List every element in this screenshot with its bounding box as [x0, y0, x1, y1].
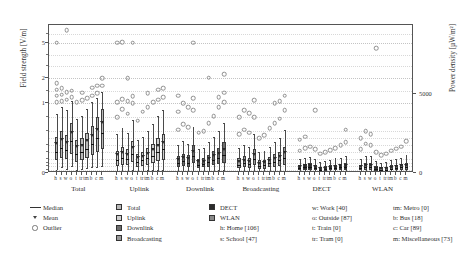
median-line [369, 167, 372, 168]
outlier-point [146, 105, 151, 110]
legend-item[interactable]: w: Work [40] [297, 202, 352, 212]
cap-upper [365, 156, 367, 157]
mean-marker [267, 159, 271, 162]
whisker-upper [138, 140, 139, 154]
legend-item[interactable]: h: Home [106] [205, 223, 259, 233]
outlier-point [115, 40, 120, 45]
y-tick-label: 2 [30, 74, 45, 81]
x-tick-label-tr: tr [79, 175, 82, 181]
outlier-point [191, 96, 196, 101]
cap-upper [314, 159, 316, 160]
median-line [263, 165, 266, 166]
outlier-point [176, 109, 181, 114]
outlier-point [242, 128, 247, 133]
whisker-lower [133, 162, 134, 170]
mean-marker [131, 146, 135, 149]
y-tick-minor [46, 116, 48, 117]
legend-item[interactable]: t: Train [0] [297, 223, 352, 233]
legend-item[interactable]: b: Bus [18] [378, 212, 452, 222]
x-tick-label-b: b [394, 175, 397, 181]
legend-label: c: Car [89] [378, 224, 422, 231]
whisker-upper [254, 134, 255, 149]
whisker-upper [249, 147, 250, 157]
mean-marker [278, 155, 282, 158]
legend-item[interactable]: Outlier [28, 223, 63, 233]
legend-item[interactable]: WLAN [205, 212, 259, 222]
whisker-upper [209, 142, 210, 155]
outlier-point [217, 105, 222, 110]
legend-item[interactable]: o: Outside [87] [297, 212, 352, 222]
cap-upper [157, 116, 159, 117]
y-right-tick-label: 5000 [419, 90, 437, 97]
whisker-lower [330, 170, 331, 172]
outlier-point [140, 109, 145, 114]
legend-glyph [33, 216, 37, 219]
outlier-point [115, 100, 120, 105]
group-label-dect: DECT [313, 185, 331, 193]
median-line [217, 158, 220, 159]
outlier-point [389, 148, 394, 153]
whisker-upper [82, 116, 83, 138]
cap-upper [213, 137, 215, 138]
outlier-point [69, 89, 74, 94]
outlier-point [252, 115, 257, 120]
legend-item[interactable]: m: Miscellaneous [73] [378, 233, 452, 243]
x-tick-label-c: c [338, 175, 340, 181]
gridline [49, 163, 412, 164]
legend-item[interactable]: s: School [47] [205, 233, 259, 243]
median-line [339, 167, 342, 168]
median-line [136, 162, 139, 163]
mean-marker [273, 157, 277, 160]
whisker-lower [310, 170, 311, 172]
x-tick-label-t: t [318, 175, 319, 181]
box [151, 144, 154, 163]
x-tick-label-tm: tm [266, 175, 271, 181]
whisker-lower [163, 160, 164, 170]
outlier-point [303, 135, 308, 140]
y-tick-minor [46, 162, 48, 163]
cap-upper [162, 110, 164, 111]
x-tick-label-m: m [99, 175, 103, 181]
mean-marker [65, 141, 69, 144]
outlier-point [64, 90, 69, 95]
legend-item[interactable]: DECT [205, 202, 259, 212]
cap-upper [243, 145, 245, 146]
mean-marker [196, 160, 200, 163]
mean-marker [212, 154, 216, 157]
legend-item[interactable]: Downlink [112, 223, 162, 233]
median-line [385, 170, 388, 171]
legend-item[interactable]: Total [112, 202, 162, 212]
box [146, 148, 149, 165]
group-label-wlan: WLAN [372, 185, 393, 193]
box [101, 109, 104, 149]
legend-item[interactable]: Broadcasting [112, 233, 162, 243]
chart-legend: MedianMeanOutlierTotalUplinkDownlinkBroa… [0, 202, 469, 260]
outlier-point [85, 96, 90, 101]
cap-lower [157, 170, 159, 171]
mean-marker [191, 150, 195, 153]
legend-glyph [209, 204, 215, 210]
cap-upper [137, 140, 139, 141]
y-tick-label: 0 [30, 169, 45, 176]
median-line [243, 163, 246, 164]
outlier-point [303, 146, 308, 151]
cap-upper [395, 159, 397, 160]
mean-marker [333, 165, 337, 168]
legend-item[interactable]: Uplink [112, 212, 162, 222]
outlier-point [75, 100, 80, 105]
cap-upper [187, 144, 189, 145]
outlier-circle-icon [28, 225, 42, 230]
outlier-point [125, 99, 130, 104]
median-line [400, 167, 403, 168]
legend-item[interactable]: Median [28, 202, 63, 212]
x-tick-label-tr: tr [201, 175, 204, 181]
median-line [101, 133, 104, 134]
legend-item[interactable]: tm: Metro [0] [378, 202, 452, 212]
legend-item[interactable]: c: Car [89] [378, 223, 452, 233]
median-line [319, 170, 322, 171]
box [222, 142, 225, 162]
outlier-point [90, 86, 95, 91]
x-tick-label-m: m [343, 175, 347, 181]
legend-item[interactable]: Mean [28, 212, 63, 222]
legend-item[interactable]: tr: Tram [0] [297, 233, 352, 243]
